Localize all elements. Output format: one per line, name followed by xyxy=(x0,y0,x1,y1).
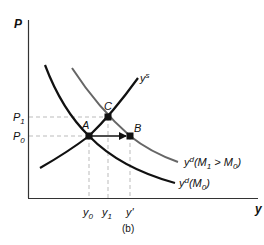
demand-shifted-arg-mid: > M xyxy=(211,156,234,168)
y-axis-label: P xyxy=(14,17,23,31)
demand-shifted-arg: (M xyxy=(194,156,208,168)
demand-curve-shifted xyxy=(72,68,178,162)
p0-label: P0 xyxy=(13,130,25,145)
p1-label: P1 xyxy=(13,111,25,126)
figure-caption: (b) xyxy=(122,223,134,234)
x-axis-label: y xyxy=(254,202,263,216)
y0-label: y0 xyxy=(82,206,94,221)
point-b-label: B xyxy=(134,122,141,134)
demand-curve-initial xyxy=(45,65,175,183)
y1-label: y1 xyxy=(101,206,112,221)
supply-label-sup: s xyxy=(146,71,150,80)
p0-label-sub: 0 xyxy=(20,136,25,145)
y0-label-sub: 0 xyxy=(89,212,94,221)
point-c-marker xyxy=(105,114,112,121)
p1-label-sub: 1 xyxy=(20,117,24,126)
y1-label-sub: 1 xyxy=(108,212,112,221)
point-c-label: C xyxy=(104,100,112,112)
point-a-marker xyxy=(86,133,93,140)
demand-shifted-label: yd(M1 > M0) xyxy=(183,155,241,171)
demand-initial-label: yd(M0) xyxy=(178,176,210,192)
demand-initial-arg: (M xyxy=(189,177,203,189)
point-a-label: A xyxy=(81,119,89,131)
ad-as-diagram: A B C P y P1 P0 y0 y1 y' ys yd(M1 > M0) xyxy=(0,0,264,245)
yprime-label: y' xyxy=(125,206,135,218)
point-b-marker xyxy=(127,133,134,140)
supply-curve-label: ys xyxy=(139,71,150,84)
